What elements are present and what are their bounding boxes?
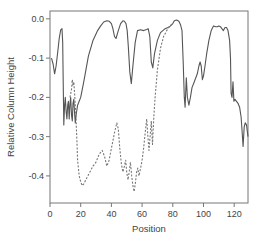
x-tick-label: 0 (47, 209, 52, 219)
plot-frame (50, 11, 248, 203)
axes (50, 11, 248, 203)
x-tick-label: 60 (137, 209, 147, 219)
y-tick-label: -0.4 (28, 171, 44, 181)
x-tick-label: 40 (106, 209, 116, 219)
y-tick-label: 0.0 (31, 14, 44, 24)
series-line-dashed (70, 24, 173, 192)
x-tick-label: 120 (227, 209, 242, 219)
x-tick-label: 20 (76, 209, 86, 219)
line-chart: 020406080100120 0.0-0.1-0.2-0.3-0.4 Posi… (0, 0, 260, 241)
x-axis-label: Position (132, 223, 166, 234)
x-axis: 020406080100120 (47, 203, 241, 219)
y-axis-label: Relative Column Height (5, 57, 16, 157)
y-tick-label: -0.3 (28, 132, 44, 142)
y-axis: 0.0-0.1-0.2-0.3-0.4 (28, 14, 50, 181)
x-tick-label: 80 (168, 209, 178, 219)
y-tick-label: -0.1 (28, 53, 44, 63)
x-tick-label: 100 (196, 209, 211, 219)
series-line-solid (52, 20, 249, 147)
y-tick-label: -0.2 (28, 92, 44, 102)
plot-lines (52, 20, 249, 192)
